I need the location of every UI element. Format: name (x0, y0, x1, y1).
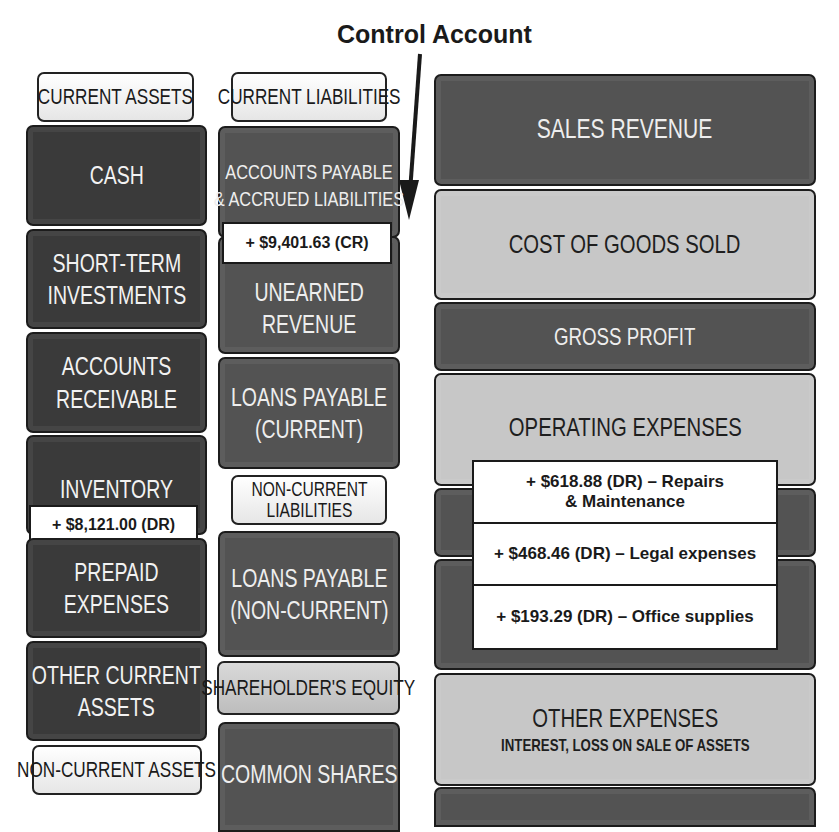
tile-loans-payable-non-current: LOANS PAYABLE(NON-CURRENT) (218, 531, 400, 657)
tile-sales-revenue: SALES REVENUE (434, 74, 816, 186)
tile-accounts-receivable: ACCOUNTSRECEIVABLE (26, 332, 207, 433)
expense-note-legal: + $468.46 (DR) – Legal expenses (472, 522, 778, 586)
expense-note-repairs: + $618.88 (DR) – Repairs& Maintenance (472, 460, 778, 524)
tile-common-shares: COMMON SHARES (218, 722, 400, 832)
non-current-assets-header: NON-CURRENT ASSETS (32, 745, 202, 795)
shareholders-equity-header: SHAREHOLDER'S EQUITY (217, 661, 400, 715)
tile-cost-of-goods-sold: COST OF GOODS SOLD (434, 189, 816, 300)
current-assets-header: CURRENT ASSETS (37, 72, 194, 122)
tile-short-term-investments: SHORT-TERMINVESTMENTS (26, 229, 207, 329)
current-liabilities-header: CURRENT LIABILITIES (231, 72, 387, 122)
tile-next-row-partial (434, 787, 816, 827)
accounts-payable-credit-note: + $9,401.63 (CR) (222, 222, 392, 264)
tile-other-current-assets: OTHER CURRENTASSETS (26, 641, 207, 741)
tile-gross-profit: GROSS PROFIT (434, 302, 816, 371)
tile-loans-payable-current: LOANS PAYABLE(CURRENT) (218, 357, 400, 469)
tile-prepaid-expenses: PREPAIDEXPENSES (26, 538, 207, 638)
control-account-title: Control Account (337, 20, 532, 49)
non-current-liabilities-header: NON-CURRENTLIABILITIES (231, 475, 387, 525)
tile-other-expenses: OTHER EXPENSESINTEREST, LOSS ON SALE OF … (434, 673, 816, 786)
tile-cash: CASH (26, 125, 207, 226)
expense-note-office-supplies: + $193.29 (DR) – Office supplies (472, 584, 778, 650)
